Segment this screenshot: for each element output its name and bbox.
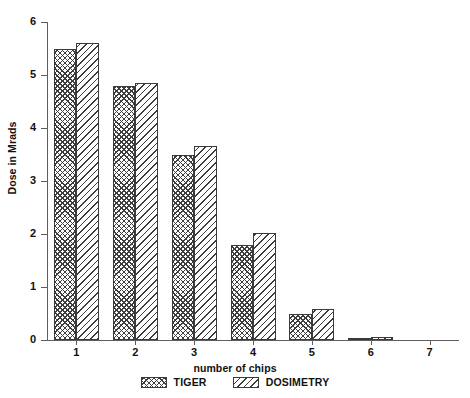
x-tick-label: 1: [61, 347, 91, 358]
x-tick-mark: [430, 341, 431, 345]
legend-swatch-tiger-icon: [141, 377, 167, 388]
x-tick-mark: [194, 341, 195, 345]
bar-dosimetry-4: [253, 233, 276, 340]
x-tick-label: 4: [238, 347, 268, 358]
y-tick-mark: [41, 234, 47, 235]
bar-tiger-4: [231, 245, 254, 340]
y-axis-title: Dose in Mrads: [6, 98, 18, 218]
bar-dosimetry-1: [76, 43, 99, 340]
y-tick-label: 5: [14, 69, 36, 80]
y-tick-mark: [41, 340, 47, 341]
legend-item-tiger: TIGER: [141, 376, 207, 388]
bar-dosimetry-3: [194, 146, 217, 341]
bar-tiger-1: [54, 49, 77, 341]
y-tick-mark: [41, 128, 47, 129]
bar-dosimetry-2: [135, 83, 158, 340]
bar-dosimetry-6: [371, 337, 394, 340]
bar-tiger-2: [113, 86, 136, 340]
x-tick-label: 2: [120, 347, 150, 358]
y-tick-mark: [41, 75, 47, 76]
bar-tiger-3: [172, 155, 195, 341]
legend-swatch-dosimetry-icon: [233, 377, 259, 388]
y-tick-label: 6: [14, 16, 36, 27]
y-tick-label: 2: [14, 228, 36, 239]
legend-label-tiger: TIGER: [174, 376, 207, 388]
bar-chart: 0123456 1234567 Dose in Mrads number of …: [0, 0, 470, 398]
y-tick-mark: [41, 287, 47, 288]
legend-label-dosimetry: DOSIMETRY: [266, 376, 330, 388]
x-tick-label: 3: [179, 347, 209, 358]
y-tick-mark: [41, 22, 47, 23]
y-tick-mark: [41, 181, 47, 182]
legend-item-dosimetry: DOSIMETRY: [233, 376, 330, 388]
x-tick-mark: [312, 341, 313, 345]
x-axis-title: number of chips: [0, 362, 470, 374]
x-tick-label: 6: [356, 347, 386, 358]
plot-area: [47, 22, 459, 340]
y-tick-label: 1: [14, 281, 36, 292]
bar-tiger-6: [348, 338, 371, 340]
y-tick-label: 0: [14, 334, 36, 345]
x-tick-label: 7: [415, 347, 445, 358]
x-tick-mark: [371, 341, 372, 345]
bar-dosimetry-5: [312, 309, 335, 340]
x-tick-mark: [253, 341, 254, 345]
x-tick-mark: [76, 341, 77, 345]
bar-tiger-5: [289, 314, 312, 341]
x-tick-mark: [135, 341, 136, 345]
x-tick-label: 5: [297, 347, 327, 358]
chart-legend: TIGER DOSIMETRY: [0, 376, 470, 388]
